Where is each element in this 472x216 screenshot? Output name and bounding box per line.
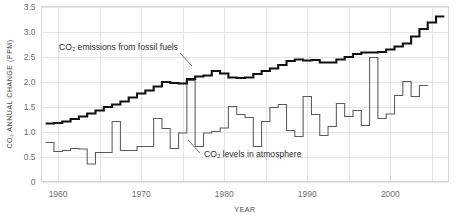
y-tick-label: 1.0 xyxy=(24,127,36,137)
y-tick-label: 2.0 xyxy=(24,77,36,87)
x-tick-label: 1990 xyxy=(298,189,317,199)
y-tick-label: 1.5 xyxy=(24,102,36,112)
y-tick-label: 0.5 xyxy=(24,152,36,162)
x-axis-title: YEAR xyxy=(234,206,255,213)
y-tick-label: 0 xyxy=(31,177,36,187)
annotation-levels-label: CO₂ levels in atmosphere xyxy=(204,149,302,159)
y-axis-title: CO₂ ANNUAL CHANGE (PPM) xyxy=(6,39,14,148)
y-tick-label: 3.5 xyxy=(24,2,36,12)
chart-canvas: 00.51.01.52.02.53.03.5 19601970198019902… xyxy=(0,0,472,216)
x-tick-label: 2000 xyxy=(381,189,400,199)
y-tick-label: 2.5 xyxy=(24,52,36,62)
annotation-emissions-label: CO₂ emissions from fossil fuels xyxy=(59,42,178,52)
y-tick-label: 3.0 xyxy=(24,27,36,37)
x-tick-label: 1970 xyxy=(132,189,151,199)
x-tick-label: 1960 xyxy=(49,189,68,199)
co2-annual-change-chart: 00.51.01.52.02.53.03.5 19601970198019902… xyxy=(0,0,472,216)
x-tick-label: 1980 xyxy=(215,189,234,199)
